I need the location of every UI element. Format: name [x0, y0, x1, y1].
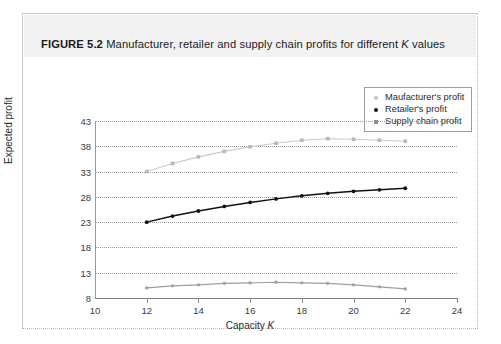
y-tick-label: 23 — [65, 217, 91, 228]
gridline — [95, 273, 457, 274]
figure-number: FIGURE 5.2 — [41, 38, 103, 50]
y-tick-label: 33 — [65, 166, 91, 177]
figure-title-band — [24, 15, 476, 57]
x-tick-mark — [250, 298, 251, 303]
y-tick-label: 38 — [65, 141, 91, 152]
figure-caption-text-2: values — [409, 38, 445, 50]
y-axis-tick-labels: 813182328333843 — [63, 121, 91, 298]
gridline — [95, 146, 457, 147]
y-tick-label: 18 — [65, 242, 91, 253]
x-tick-label: 14 — [193, 305, 204, 316]
x-axis-title: Capacity K — [23, 320, 477, 331]
x-axis-title-text: Capacity — [226, 320, 268, 331]
plot-area — [95, 121, 457, 298]
y-tick-label: 28 — [65, 191, 91, 202]
y-tick-label: 8 — [65, 293, 91, 304]
y-tick-label: 43 — [65, 116, 91, 127]
legend-item-manufacturer: Maufacturer's profit — [371, 91, 464, 103]
x-tick-label: 20 — [348, 305, 359, 316]
x-tick-label: 24 — [452, 305, 463, 316]
x-tick-mark — [302, 298, 303, 303]
x-tick-label: 10 — [90, 305, 101, 316]
gridline — [95, 172, 457, 173]
x-tick-mark — [354, 298, 355, 303]
y-axis-line — [95, 121, 96, 299]
x-tick-label: 16 — [245, 305, 256, 316]
legend-label-manufacturer: Maufacturer's profit — [385, 92, 464, 102]
y-tick-label: 13 — [65, 267, 91, 278]
x-tick-mark — [405, 298, 406, 303]
x-tick-label: 22 — [400, 305, 411, 316]
x-axis-title-variable: K — [268, 320, 275, 331]
legend-label-retailer: Retailer's profit — [385, 104, 447, 114]
figure-caption: FIGURE 5.2 Manufacturer, retailer and su… — [41, 38, 445, 50]
gridline — [95, 247, 457, 248]
gridline — [95, 197, 457, 198]
x-tick-mark — [198, 298, 199, 303]
gridline — [95, 121, 457, 122]
figure-caption-k: K — [401, 38, 409, 50]
x-tick-label: 18 — [297, 305, 308, 316]
x-tick-mark — [457, 298, 458, 303]
x-tick-label: 12 — [141, 305, 152, 316]
legend-item-retailer: Retailer's profit — [371, 103, 464, 115]
x-axis-line — [95, 298, 458, 299]
figure-container: FIGURE 5.2 Manufacturer, retailer and su… — [22, 13, 478, 329]
figure-caption-text-1: Manufacturer, retailer and supply chain … — [106, 38, 401, 50]
y-axis-title: Expected profit — [3, 97, 14, 164]
x-tick-mark — [147, 298, 148, 303]
gridline — [95, 222, 457, 223]
